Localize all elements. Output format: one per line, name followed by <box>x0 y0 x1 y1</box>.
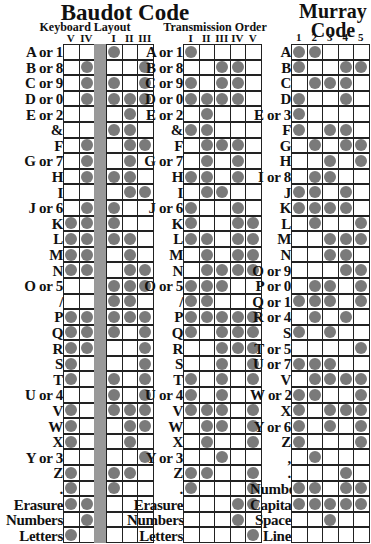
hole-cell <box>353 262 370 278</box>
punched-hole-icon <box>309 311 321 323</box>
character-label: T <box>0 373 64 388</box>
punched-hole-icon <box>201 436 213 448</box>
character-label: O or 9 <box>250 264 292 279</box>
code-row: L <box>250 217 370 233</box>
hole-cell <box>230 262 247 278</box>
hole-cell <box>230 434 247 450</box>
hole-cell <box>291 138 308 154</box>
hole-cell <box>307 403 324 419</box>
hole-cell <box>63 169 80 185</box>
hole-cell <box>322 60 339 76</box>
hole-cell <box>307 262 324 278</box>
code-row: W <box>127 419 262 435</box>
hole-cell <box>230 418 247 434</box>
character-label: D or 0 <box>127 92 184 107</box>
punched-hole-icon <box>185 404 197 416</box>
punched-hole-icon <box>185 295 197 307</box>
hole-cell <box>106 465 123 481</box>
punched-hole-icon <box>309 373 321 385</box>
character-label: Y or 6 <box>250 420 292 435</box>
punched-hole-icon <box>309 202 321 214</box>
punched-hole-icon <box>324 202 336 214</box>
punched-hole-icon <box>81 139 93 151</box>
punched-hole-icon <box>185 124 197 136</box>
hole-cell <box>291 184 308 200</box>
punched-hole-icon <box>81 264 93 276</box>
hole-cell <box>106 200 123 216</box>
punched-hole-icon <box>355 264 367 276</box>
hole-cell <box>63 278 80 294</box>
hole-cell <box>322 449 339 465</box>
hole-cell <box>338 294 355 310</box>
hole-cell <box>322 434 339 450</box>
hole-cell <box>353 169 370 185</box>
punched-hole-icon <box>81 93 93 105</box>
hole-cell <box>338 512 355 528</box>
hole-cell <box>63 294 80 310</box>
punched-hole-icon <box>81 155 93 167</box>
code-row: U or 4 <box>127 388 262 404</box>
hole-cell <box>183 294 200 310</box>
hole-cell <box>79 138 96 154</box>
column-label: V <box>245 32 261 44</box>
punched-hole-icon <box>216 451 228 463</box>
punched-hole-icon <box>65 217 77 229</box>
punched-hole-icon <box>355 217 367 229</box>
hole-cell <box>230 184 247 200</box>
hole-cell <box>230 496 247 512</box>
hole-cell <box>353 75 370 91</box>
hole-cell <box>307 356 324 372</box>
code-row: B or 8 <box>127 61 262 77</box>
hole-cell <box>63 449 80 465</box>
punched-hole-icon <box>185 326 197 338</box>
punched-hole-icon <box>201 404 213 416</box>
character-label: . <box>0 482 64 497</box>
hole-cell <box>307 247 324 263</box>
hole-cell <box>183 496 200 512</box>
code-row: F <box>127 139 262 155</box>
hole-cell <box>307 465 324 481</box>
hole-cell <box>106 138 123 154</box>
hole-cell <box>291 418 308 434</box>
hole-cell <box>199 200 216 216</box>
hole-cell <box>230 200 247 216</box>
punched-hole-icon <box>216 93 228 105</box>
punched-hole-icon <box>309 451 321 463</box>
punched-hole-icon <box>185 280 197 292</box>
punched-hole-icon <box>185 217 197 229</box>
hole-cell <box>183 356 200 372</box>
hole-cell <box>307 309 324 325</box>
hole-cell <box>63 231 80 247</box>
character-label: / <box>127 295 184 310</box>
hole-cell <box>183 122 200 138</box>
hole-cell <box>63 356 80 372</box>
punched-hole-icon <box>65 529 77 541</box>
hole-cell <box>338 325 355 341</box>
punched-hole-icon <box>65 311 77 323</box>
hole-cell <box>199 403 216 419</box>
punched-hole-icon <box>355 373 367 385</box>
hole-cell <box>322 138 339 154</box>
hole-cell <box>214 527 231 543</box>
hole-cell <box>322 387 339 403</box>
punched-hole-icon <box>65 233 77 245</box>
hole-cell <box>63 527 80 543</box>
character-label: K <box>127 217 184 232</box>
punched-hole-icon <box>309 139 321 151</box>
punched-hole-icon <box>355 342 367 354</box>
hole-cell <box>322 356 339 372</box>
mu-column-header: 12345 <box>291 31 369 43</box>
hole-cell <box>63 512 80 528</box>
punched-hole-icon <box>81 326 93 338</box>
hole-cell <box>183 449 200 465</box>
punched-hole-icon <box>340 482 352 494</box>
hole-cell <box>63 200 80 216</box>
hole-cell <box>63 91 80 107</box>
hole-cell <box>199 481 216 497</box>
punched-hole-icon <box>81 311 93 323</box>
hole-cell <box>353 278 370 294</box>
punched-hole-icon <box>340 202 352 214</box>
code-row: R <box>127 341 262 357</box>
hole-cell <box>338 75 355 91</box>
code-row: D <box>250 92 370 108</box>
